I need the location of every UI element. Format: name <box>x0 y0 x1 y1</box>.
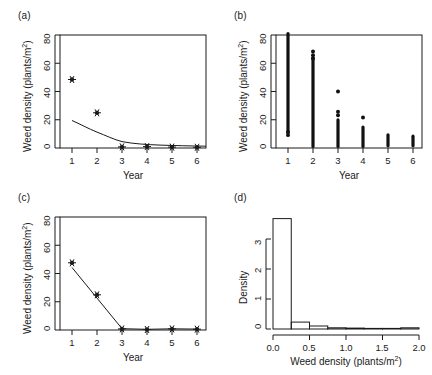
panel-d-bar-1 <box>291 322 309 329</box>
panel-c-xtick-6: 6 <box>191 337 203 348</box>
panel-b-xtick-2: 2 <box>307 155 319 166</box>
panel-b-x-axis-title: Year <box>319 170 379 181</box>
panel-d-bar-4 <box>346 328 364 329</box>
panel-b-point-columns <box>286 32 415 148</box>
panel-c-point-year-2 <box>93 291 101 298</box>
panel-d-histogram-bars <box>273 219 419 329</box>
panel-d-bar-0 <box>273 219 291 329</box>
panel-a-xtick-5: 5 <box>166 155 178 166</box>
panel-d-x-axis-title: Weed density (plants/m2) <box>266 356 426 367</box>
panel-b-xtick-1: 1 <box>282 155 294 166</box>
panel-c-point-year-1 <box>68 259 76 266</box>
panel-c: (c) Weed density (plants/m2) 80 60 40 20… <box>0 188 216 375</box>
panel-b-xtick-3: 3 <box>332 155 344 166</box>
panel-b-column-year-1 <box>286 32 289 135</box>
panel-a-xtick-3: 3 <box>116 155 128 166</box>
panel-a-xtick-4: 4 <box>141 155 153 166</box>
panel-d-bar-5 <box>364 328 382 329</box>
panel-c-xtick-1: 1 <box>66 337 78 348</box>
panel-b-column-year-6 <box>411 135 414 148</box>
panel-a-xtick-2: 2 <box>91 155 103 166</box>
panel-d-bar-3 <box>328 328 346 329</box>
panel-d: (d) Density 3 2 1 0 <box>216 188 432 375</box>
panel-d-bar-7 <box>401 328 419 329</box>
panel-a-plot <box>0 0 216 188</box>
panel-c-plot <box>0 188 216 375</box>
panel-d-bar-6 <box>383 328 401 329</box>
panel-b-column-year-5 <box>386 133 389 147</box>
panel-a: (a) Weed density (plants/m2) 80 60 40 20… <box>0 0 216 188</box>
panel-a-xtick-6: 6 <box>191 155 203 166</box>
panel-b-xtick-6: 6 <box>407 155 419 166</box>
panel-d-xtick-2.0: 2.0 <box>407 342 431 353</box>
panel-d-xtick-1.5: 1.5 <box>370 342 394 353</box>
panel-d-xtick-1.0: 1.0 <box>334 342 358 353</box>
panel-b-column-year-4 <box>361 125 364 148</box>
figure-panel-grid: (a) Weed density (plants/m2) 80 60 40 20… <box>0 0 432 375</box>
panel-a-xtick-1: 1 <box>66 155 78 166</box>
panel-b-xtick-5: 5 <box>382 155 394 166</box>
panel-b-column-year-3 <box>336 118 339 148</box>
panel-d-bar-2 <box>310 326 328 329</box>
panel-c-xtick-4: 4 <box>141 337 153 348</box>
panel-c-x-axis-title: Year <box>103 352 163 363</box>
panel-b-plot <box>216 0 432 188</box>
panel-c-xtick-3: 3 <box>116 337 128 348</box>
panel-b: (b) Weed density (plants/m2) 80 60 40 20… <box>216 0 432 188</box>
panel-a-x-axis-title: Year <box>103 170 163 181</box>
panel-d-x-axis-title-text: Weed density (plants/m <box>290 356 394 367</box>
panel-b-column-year-2 <box>311 56 314 148</box>
panel-a-point-year-2 <box>93 109 101 116</box>
panel-d-xtick-0.0: 0.0 <box>261 342 285 353</box>
panel-a-point-year-1 <box>68 76 76 83</box>
panel-d-xtick-0.5: 0.5 <box>297 342 321 353</box>
panel-c-xtick-2: 2 <box>91 337 103 348</box>
panel-d-x-axis-title-close: ) <box>398 356 401 367</box>
panel-c-xtick-5: 5 <box>166 337 178 348</box>
panel-d-plot <box>216 188 432 375</box>
panel-b-xtick-4: 4 <box>357 155 369 166</box>
